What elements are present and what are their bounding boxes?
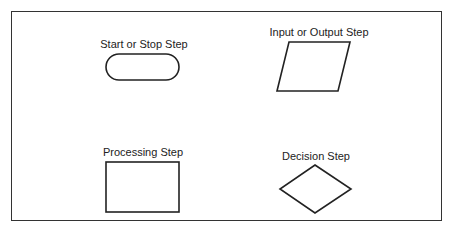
io-shape — [277, 42, 350, 91]
process-shape — [106, 162, 179, 212]
decision-shape — [280, 165, 351, 213]
flowchart-shapes — [0, 0, 453, 236]
terminal-shape — [106, 54, 179, 80]
